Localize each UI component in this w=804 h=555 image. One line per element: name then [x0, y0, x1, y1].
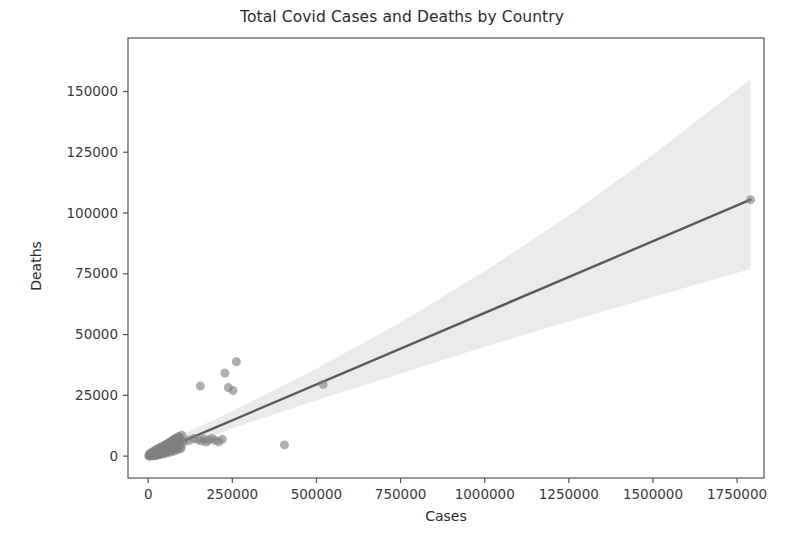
y-axis-ticks: 0250005000075000100000125000150000	[66, 83, 128, 464]
svg-text:150000: 150000	[66, 83, 118, 99]
chart-figure: Total Covid Cases and Deaths by Country …	[0, 0, 804, 555]
svg-text:250000: 250000	[207, 486, 259, 502]
svg-text:125000: 125000	[66, 144, 118, 160]
svg-text:100000: 100000	[66, 205, 118, 221]
svg-text:50000: 50000	[75, 326, 118, 342]
svg-text:1250000: 1250000	[539, 486, 599, 502]
svg-text:0: 0	[109, 448, 118, 464]
svg-text:25000: 25000	[75, 387, 118, 403]
svg-text:1500000: 1500000	[623, 486, 683, 502]
svg-text:500000: 500000	[291, 486, 343, 502]
x-axis-label: Cases	[128, 508, 764, 524]
svg-text:1000000: 1000000	[455, 486, 515, 502]
x-axis-ticks: 0250000500000750000100000012500001500000…	[144, 478, 767, 502]
y-axis-label: Deaths	[28, 206, 44, 326]
svg-text:1750000: 1750000	[707, 486, 767, 502]
svg-text:75000: 75000	[75, 265, 118, 281]
svg-text:750000: 750000	[375, 486, 427, 502]
scatter-plot: 0250000500000750000100000012500001500000…	[0, 0, 804, 555]
svg-text:0: 0	[144, 486, 153, 502]
